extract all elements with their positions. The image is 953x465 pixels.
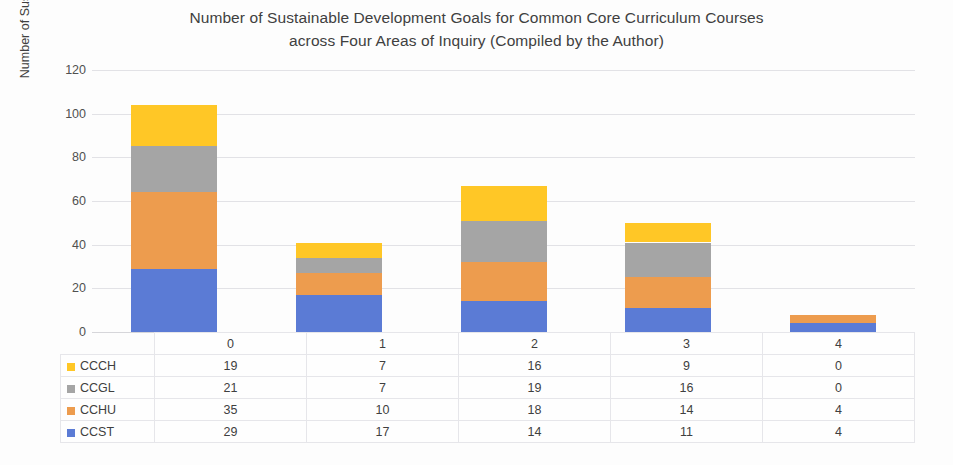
bar-segment-CCHU-0[interactable]	[131, 192, 217, 268]
bar-segment-CCHU-2[interactable]	[461, 262, 547, 301]
table-column-header-0: 0	[155, 333, 307, 355]
table-row: CCGL21719160	[61, 377, 915, 399]
bar-segment-CCCH-2[interactable]	[461, 186, 547, 221]
table-column-header-4: 4	[763, 333, 915, 355]
table-cell-CCHU-0: 35	[155, 399, 307, 421]
table-column-header-3: 3	[611, 333, 763, 355]
table-cell-CCST-2: 14	[459, 421, 611, 443]
chart-title-line-1: Number of Sustainable Development Goals …	[0, 6, 953, 29]
table-cell-CCCH-2: 16	[459, 355, 611, 377]
data-table-body: CCCH1971690CCGL21719160CCHU351018144CCST…	[61, 355, 915, 443]
bar-segment-CCST-3[interactable]	[625, 308, 711, 332]
table-cell-CCGL-1: 7	[307, 377, 459, 399]
table-column-header-2: 2	[459, 333, 611, 355]
table-cell-CCHU-1: 10	[307, 399, 459, 421]
legend-swatch-icon-CCCH	[67, 363, 75, 371]
bar-stack-2[interactable]	[461, 70, 547, 332]
bar-segment-CCCH-1[interactable]	[296, 243, 382, 258]
table-cell-CCCH-4: 0	[763, 355, 915, 377]
bar-segment-CCGL-0[interactable]	[131, 146, 217, 192]
y-tick-label-120: 120	[46, 64, 86, 77]
bar-segment-CCGL-3[interactable]	[625, 243, 711, 278]
bars-layer	[92, 70, 915, 332]
legend-entry-CCGL[interactable]: CCGL	[61, 377, 155, 399]
bar-segment-CCST-1[interactable]	[296, 295, 382, 332]
y-tick-label-80: 80	[46, 151, 86, 164]
table-cell-CCGL-3: 16	[611, 377, 763, 399]
legend-entry-CCCH[interactable]: CCCH	[61, 355, 155, 377]
y-axis-title: Number of Sustainable Development Goals	[17, 0, 33, 94]
bar-segment-CCGL-2[interactable]	[461, 221, 547, 262]
y-tick-label-60: 60	[46, 195, 86, 208]
bar-stack-1[interactable]	[296, 70, 382, 332]
y-axis-tick-labels: 020406080100120	[46, 70, 86, 332]
table-cell-CCHU-2: 18	[459, 399, 611, 421]
table-cell-CCCH-1: 7	[307, 355, 459, 377]
chart-title-line-2: across Four Areas of Inquiry (Compiled b…	[0, 29, 953, 52]
legend-swatch-icon-CCGL	[67, 385, 75, 393]
legend-label-CCHU: CCHU	[80, 403, 116, 417]
bar-segment-CCCH-0[interactable]	[131, 105, 217, 146]
y-tick-label-20: 20	[46, 282, 86, 295]
legend-swatch-icon-CCHU	[67, 407, 75, 415]
bar-segment-CCST-2[interactable]	[461, 301, 547, 332]
table-cell-CCST-0: 29	[155, 421, 307, 443]
bar-segment-CCST-0[interactable]	[131, 269, 217, 332]
plot-area	[92, 70, 915, 332]
table-cell-CCST-1: 17	[307, 421, 459, 443]
legend-entry-CCHU[interactable]: CCHU	[61, 399, 155, 421]
bar-segment-CCHU-1[interactable]	[296, 273, 382, 295]
table-cell-CCGL-0: 21	[155, 377, 307, 399]
table-header-row: 01234	[61, 333, 915, 355]
table-corner-cell	[61, 333, 155, 355]
table-cell-CCST-3: 11	[611, 421, 763, 443]
legend-label-CCCH: CCCH	[80, 359, 116, 373]
bar-segment-CCST-4[interactable]	[790, 323, 876, 332]
table-cell-CCHU-4: 4	[763, 399, 915, 421]
data-table-header: 01234	[61, 333, 915, 355]
bar-stack-3[interactable]	[625, 70, 711, 332]
table-column-header-1: 1	[307, 333, 459, 355]
table-cell-CCST-4: 4	[763, 421, 915, 443]
table-cell-CCCH-0: 19	[155, 355, 307, 377]
bar-segment-CCHU-3[interactable]	[625, 277, 711, 308]
bar-segment-CCHU-4[interactable]	[790, 315, 876, 324]
table-row: CCCH1971690	[61, 355, 915, 377]
legend-label-CCGL: CCGL	[80, 381, 115, 395]
bar-stack-4[interactable]	[790, 70, 876, 332]
y-tick-label-100: 100	[46, 107, 86, 120]
table-row: CCST291714114	[61, 421, 915, 443]
table-row: CCHU351018144	[61, 399, 915, 421]
bar-stack-0[interactable]	[131, 70, 217, 332]
legend-label-CCST: CCST	[80, 425, 114, 439]
bar-segment-CCGL-1[interactable]	[296, 258, 382, 273]
table-cell-CCCH-3: 9	[611, 355, 763, 377]
table-cell-CCGL-2: 19	[459, 377, 611, 399]
legend-entry-CCST[interactable]: CCST	[61, 421, 155, 443]
data-table: 01234 CCCH1971690CCGL21719160CCHU3510181…	[60, 332, 915, 443]
legend-swatch-icon-CCST	[67, 429, 75, 437]
y-tick-label-40: 40	[46, 238, 86, 251]
table-cell-CCHU-3: 14	[611, 399, 763, 421]
table-cell-CCGL-4: 0	[763, 377, 915, 399]
bar-segment-CCCH-3[interactable]	[625, 223, 711, 243]
chart-title: Number of Sustainable Development Goals …	[0, 6, 953, 52]
